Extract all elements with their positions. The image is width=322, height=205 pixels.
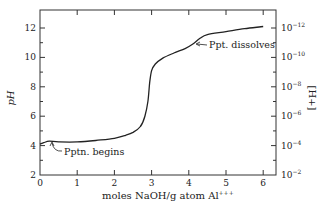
y-tick-label: 10 <box>25 52 37 62</box>
x-tick-label: 1 <box>74 178 80 188</box>
x-tick-label: 0 <box>37 178 43 188</box>
x-tick-label: 3 <box>149 178 155 188</box>
y-tick-label: 12 <box>25 23 36 33</box>
annotations: Pptn. beginsPpt. dissolves <box>50 39 275 157</box>
annotation-ppt-dissolves: Ppt. dissolves <box>209 39 275 50</box>
y2-tick-label: 10−8 <box>281 80 301 92</box>
x-axis-label: moles NaOH/g atom Al+++ <box>102 189 234 201</box>
x-tick-label: 2 <box>112 178 118 188</box>
y-tick-label: 4 <box>30 141 36 151</box>
y-tick-label: 2 <box>30 170 36 180</box>
y2-tick-label: 10−10 <box>281 50 305 62</box>
y-tick-label: 8 <box>30 82 36 92</box>
x-tick-label: 6 <box>260 178 266 188</box>
y2-tick-label: 10−4 <box>281 139 301 151</box>
titration-chart: 0123456 24681012 10−210−410−610−810−1010… <box>0 0 322 205</box>
x-tick-label: 4 <box>186 178 192 188</box>
y-tick-label: 6 <box>30 111 36 121</box>
annotation-pptn-begins: Pptn. begins <box>64 146 124 157</box>
y2-tick-label: 10−2 <box>281 168 301 180</box>
y-axis-label: pH <box>5 90 16 105</box>
y2-axis-label: [H+] <box>307 86 318 111</box>
x-tick-label: 5 <box>223 178 229 188</box>
x-axis-ticks: 0123456 <box>37 10 266 188</box>
y2-tick-label: 10−6 <box>281 109 301 121</box>
y2-tick-label: 10−12 <box>281 21 305 33</box>
